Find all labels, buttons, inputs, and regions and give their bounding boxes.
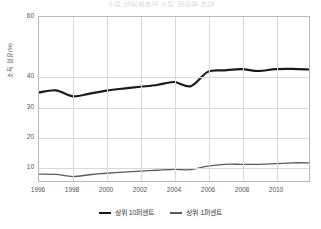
gridline-horizontal (39, 168, 309, 169)
y-tick-label: 20 (4, 133, 34, 140)
y-tick-label: 40 (4, 72, 34, 79)
gridline-vertical (209, 17, 210, 181)
legend-item[interactable]: 상위 1퍼센트 (170, 208, 222, 217)
legend-item[interactable]: 상위 10퍼센트 (99, 208, 155, 217)
plot-area (38, 16, 310, 182)
y-tick-label: 30 (4, 103, 34, 110)
legend-label: 상위 10퍼센트 (115, 208, 155, 217)
gridline-vertical (243, 17, 244, 181)
gridline-vertical (141, 17, 142, 181)
gridline-vertical (73, 17, 74, 181)
legend-label: 상위 1퍼센트 (186, 208, 222, 217)
series-line-0 (39, 69, 309, 97)
gridline-horizontal (39, 77, 309, 78)
series-canvas (39, 17, 309, 181)
chart-title: 소득 상위계층의 소득 점유율 추이 (0, 0, 321, 7)
gridline-vertical (107, 17, 108, 181)
gridline-horizontal (39, 138, 309, 139)
legend-swatch-icon (170, 212, 182, 214)
gridline-horizontal (39, 108, 309, 109)
gridline-vertical (277, 17, 278, 181)
income-share-line-chart: 소득 상위계층의 소득 점유율 추이 소득 점유(%) 6040302010 상… (0, 0, 321, 229)
y-axis-tick-labels: 6040302010 (0, 0, 34, 229)
chart-legend: 상위 10퍼센트상위 1퍼센트 (0, 208, 321, 217)
x-tick-label: 2010 (256, 186, 296, 194)
gridline-vertical (175, 17, 176, 181)
legend-swatch-icon (99, 212, 111, 214)
series-line-1 (39, 163, 309, 177)
y-tick-label: 60 (4, 12, 34, 19)
y-tick-label: 10 (4, 163, 34, 170)
